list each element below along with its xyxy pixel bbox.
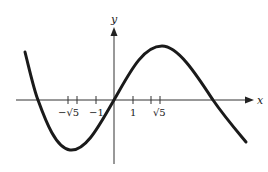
function-curve xyxy=(25,46,246,150)
x-axis-arrow-icon xyxy=(245,97,254,104)
function-graph: x y −√5 −1 1 √5 xyxy=(0,0,268,172)
y-axis-label: y xyxy=(110,13,118,26)
tick-label-neg-sqrt5: −√5 xyxy=(58,107,79,118)
tick-label-one: 1 xyxy=(130,107,136,118)
y-axis-arrow-icon xyxy=(111,27,118,36)
x-axis-label: x xyxy=(257,94,264,107)
graph-canvas: x y −√5 −1 1 √5 xyxy=(0,0,268,172)
tick-label-neg-one: −1 xyxy=(89,107,104,118)
tick-label-sqrt5: √5 xyxy=(153,107,166,118)
